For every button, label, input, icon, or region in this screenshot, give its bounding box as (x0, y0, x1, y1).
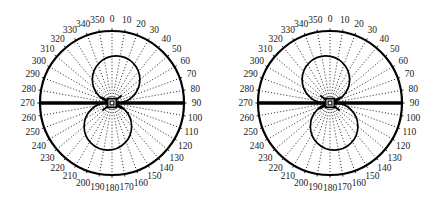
angle-label-20: 20 (136, 19, 146, 29)
outer-tick-230 (55, 149, 57, 151)
angle-label-120: 120 (178, 141, 193, 151)
angle-label-110: 110 (184, 127, 198, 137)
angle-label-290: 290 (25, 69, 40, 79)
outer-tick-320 (64, 46, 66, 48)
radial-gridline-20 (113, 36, 136, 100)
outer-tick-40 (158, 46, 160, 48)
radial-gridline-110 (115, 104, 179, 127)
angle-label-110: 110 (402, 127, 416, 137)
outer-tick-130 (385, 149, 387, 151)
angle-label-300: 300 (32, 56, 47, 66)
angle-label-90: 90 (410, 98, 420, 108)
angle-label-260: 260 (240, 113, 255, 123)
lower-lobe-curve (310, 103, 358, 151)
angle-label-300: 300 (250, 56, 265, 66)
radial-gridline-170 (113, 106, 125, 173)
radial-gridline-210 (77, 106, 111, 165)
radial-gridline-260 (42, 104, 109, 116)
outer-tick-220 (64, 158, 66, 160)
angle-label-50: 50 (172, 44, 182, 54)
radial-gridline-250 (45, 104, 109, 127)
angle-label-80: 80 (190, 84, 200, 94)
angle-label-250: 250 (25, 127, 40, 137)
radial-gridline-160 (113, 106, 136, 170)
angle-label-90: 90 (192, 98, 202, 108)
right-polar-plot-svg: 0102030405060708090100110120130140150160… (218, 0, 436, 216)
radial-gridline-350 (318, 33, 330, 100)
angle-label-180: 180 (323, 183, 338, 193)
angle-label-180: 180 (105, 183, 120, 193)
radial-gridline-350 (100, 33, 112, 100)
angle-label-200: 200 (76, 178, 91, 188)
right-polar-plot-panel: 0102030405060708090100110120130140150160… (218, 0, 436, 216)
center-marker-square (326, 99, 335, 108)
outer-tick-140 (376, 158, 378, 160)
radial-gridline-200 (306, 106, 329, 170)
upper-lobe-curve (92, 56, 140, 104)
angle-label-280: 280 (22, 84, 37, 94)
angle-label-80: 80 (408, 84, 418, 94)
radial-gridline-70 (333, 79, 397, 102)
radial-gridline-120 (115, 105, 174, 139)
angle-label-250: 250 (243, 127, 258, 137)
angle-label-220: 220 (269, 163, 284, 173)
outer-tick-220 (282, 158, 284, 160)
angle-label-70: 70 (405, 69, 415, 79)
outer-tick-50 (167, 55, 169, 57)
angle-label-0: 0 (110, 14, 115, 24)
radial-gridline-100 (333, 104, 400, 116)
angle-label-10: 10 (122, 15, 132, 25)
angle-label-330: 330 (63, 25, 78, 35)
radial-gridline-30 (114, 42, 148, 101)
angle-label-170: 170 (120, 182, 135, 192)
angle-label-270: 270 (238, 98, 253, 108)
radial-gridline-60 (115, 68, 174, 102)
angle-label-100: 100 (188, 113, 203, 123)
radial-gridline-160 (331, 106, 354, 170)
outer-tick-130 (167, 149, 169, 151)
angle-label-260: 260 (22, 113, 37, 123)
radial-gridline-280 (260, 91, 327, 103)
angle-label-120: 120 (396, 141, 411, 151)
angle-label-350: 350 (308, 15, 323, 25)
right-polar-plot-group: 0102030405060708090100110120130140150160… (238, 14, 420, 193)
angle-label-310: 310 (258, 44, 273, 54)
angle-label-160: 160 (134, 178, 149, 188)
angle-label-240: 240 (250, 141, 265, 151)
angle-label-130: 130 (388, 153, 403, 163)
angle-label-150: 150 (365, 171, 380, 181)
left-polar-plot-panel: 0102030405060708090100110120130140150160… (0, 0, 218, 216)
radial-gridline-340 (88, 36, 111, 100)
angle-label-70: 70 (187, 69, 197, 79)
outer-tick-310 (55, 55, 57, 57)
radial-gridline-300 (269, 68, 328, 102)
radial-gridline-10 (113, 33, 125, 100)
angle-label-170: 170 (338, 182, 353, 192)
radial-gridline-200 (88, 106, 111, 170)
radial-gridline-190 (100, 106, 112, 173)
outer-tick-320 (282, 46, 284, 48)
angle-label-150: 150 (147, 171, 162, 181)
angle-label-10: 10 (340, 15, 350, 25)
radial-gridline-150 (332, 106, 366, 165)
radial-gridline-80 (115, 91, 182, 103)
angle-label-330: 330 (281, 25, 296, 35)
upper-lobe-curve (302, 56, 350, 104)
radial-gridline-240 (51, 105, 110, 139)
radial-gridline-10 (331, 33, 343, 100)
radial-gridline-300 (51, 68, 110, 102)
radial-gridline-110 (333, 104, 397, 127)
lower-lobe-curve (84, 103, 132, 151)
angle-label-270: 270 (20, 98, 35, 108)
angle-label-230: 230 (40, 153, 55, 163)
radial-gridline-330 (295, 42, 329, 101)
angle-label-130: 130 (170, 153, 185, 163)
angle-label-310: 310 (40, 44, 55, 54)
radial-gridline-120 (333, 105, 392, 139)
angle-label-20: 20 (354, 19, 364, 29)
angle-label-50: 50 (390, 44, 400, 54)
outer-tick-50 (385, 55, 387, 57)
radial-gridline-170 (331, 106, 343, 173)
polar-plot-figure: 0102030405060708090100110120130140150160… (0, 0, 436, 216)
angle-label-190: 190 (90, 182, 105, 192)
